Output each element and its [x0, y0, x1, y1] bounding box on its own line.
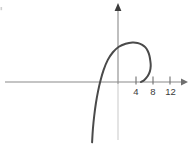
data-curve: [92, 42, 151, 142]
x-tick-label-4: 4: [133, 86, 138, 97]
scan-artifact-mark: [1, 7, 3, 10]
plot-area: 4 8 12: [0, 0, 195, 146]
x-axis-arrow-icon: [181, 79, 188, 86]
x-tick-label-12: 12: [165, 86, 176, 97]
x-tick-label-8: 8: [150, 86, 155, 97]
y-axis-arrow-icon: [115, 3, 122, 11]
figure-canvas: 4 8 12: [0, 0, 195, 146]
x-tick-marks: [136, 77, 170, 85]
